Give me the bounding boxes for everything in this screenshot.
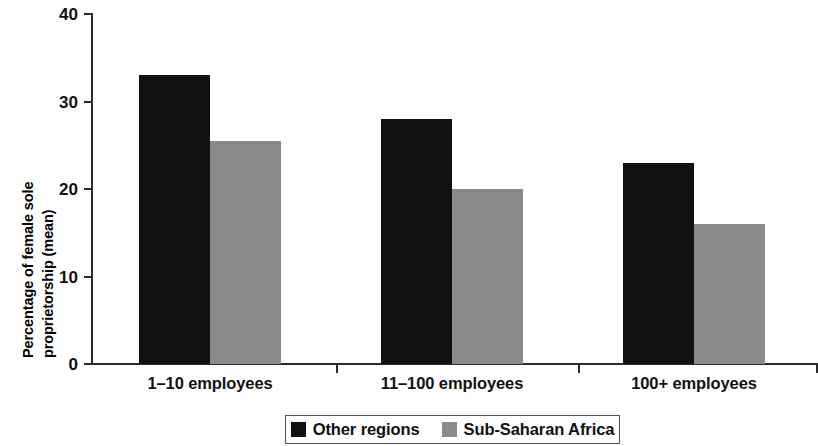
bar-2-1 [381,119,452,364]
chart-legend: Other regions Sub-Saharan Africa [285,415,620,444]
legend-label-other-regions: Other regions [313,420,420,439]
legend-label-sub-saharan-africa: Sub-Saharan Africa [464,420,615,439]
bar-chart-figure: Percentage of female sole proprietorship… [0,0,818,446]
legend-item-other-regions: Other regions [291,420,420,439]
x-axis-tick-separator-2 [578,364,580,373]
x-axis-label-group-2: 11–100 employees [342,374,562,393]
bar-3-2 [694,224,765,364]
legend-swatch-dark-square-icon [291,422,306,437]
bar-1-2 [210,141,281,364]
x-axis-label-group-1: 1–10 employees [100,374,320,393]
bar-3-1 [623,163,694,364]
x-axis-label-group-3: 100+ employees [584,374,804,393]
legend-item-sub-saharan-africa: Sub-Saharan Africa [442,420,615,439]
bar-1-1 [139,75,210,364]
x-axis-tick-separator-1 [336,364,338,373]
bar-2-2 [452,189,523,364]
bars-layer [0,0,818,364]
legend-swatch-gray-square-icon [442,422,457,437]
